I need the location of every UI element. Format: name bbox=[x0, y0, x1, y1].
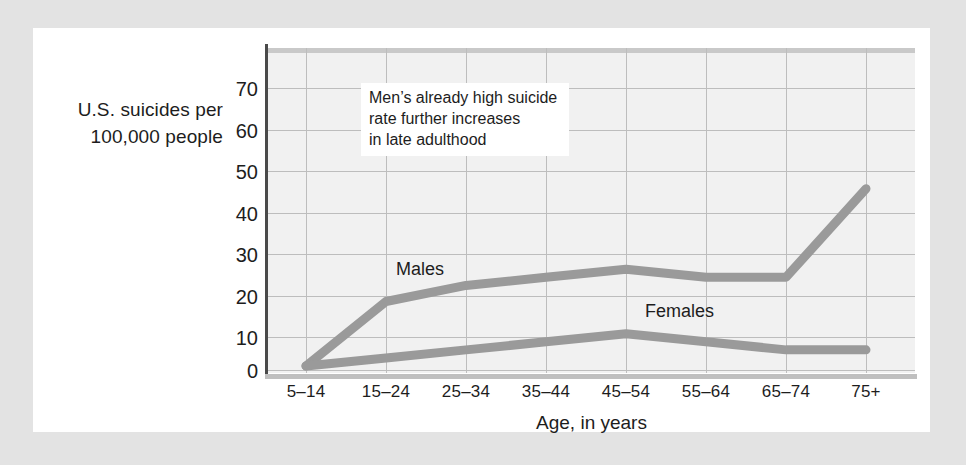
series-line-females bbox=[306, 334, 866, 366]
annotation-men-rate-note: Men’s already high suicide rate further … bbox=[361, 83, 569, 156]
series-label-females: Females bbox=[645, 301, 714, 322]
annotation-line-2: rate further increases bbox=[369, 108, 557, 129]
series-label-males: Males bbox=[396, 259, 444, 280]
annotation-line-1: Men’s already high suicide bbox=[369, 87, 557, 108]
annotation-line-3: in late adulthood bbox=[369, 129, 557, 150]
series-layer bbox=[0, 0, 966, 465]
figure-root: U.S. suicides per 100,000 people 70 60 5… bbox=[0, 0, 966, 465]
